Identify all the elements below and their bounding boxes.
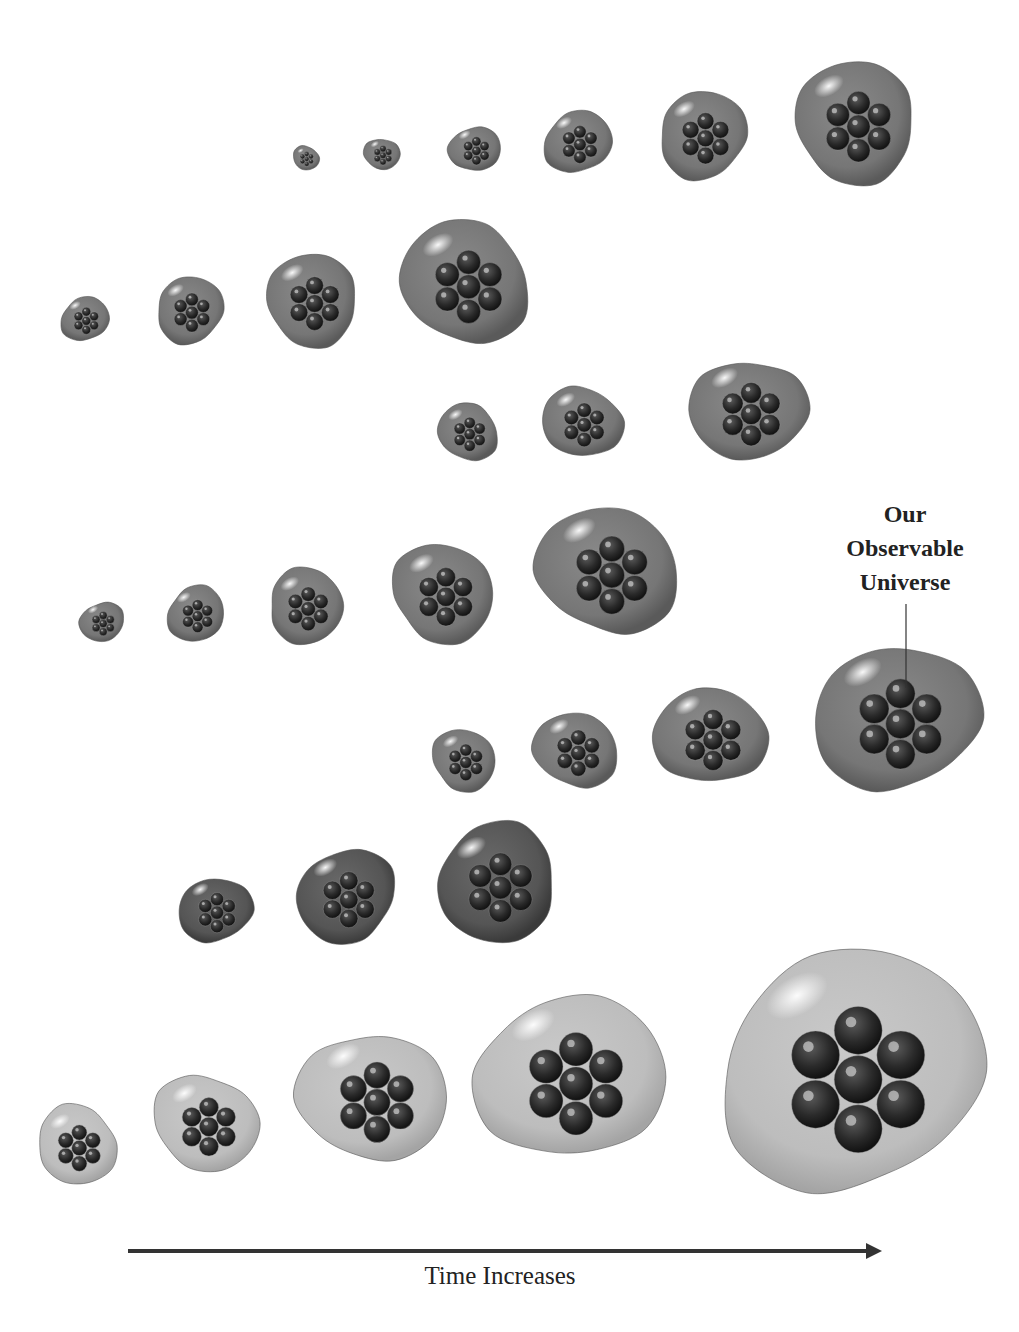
row-7 — [40, 949, 987, 1194]
observable-universe-bubble — [816, 649, 984, 792]
universe-bubble — [725, 949, 987, 1194]
universe-bubble — [267, 254, 355, 348]
universe-bubble — [293, 1037, 446, 1162]
row-4 — [79, 508, 677, 645]
universe-bubble — [40, 1103, 117, 1184]
universe-bubble — [533, 508, 677, 635]
universe-bubble — [392, 544, 492, 644]
universe-bubble — [543, 386, 625, 455]
callout-line-3: Universe — [835, 565, 975, 599]
universe-bubble — [437, 403, 497, 461]
universe-bubble — [531, 713, 616, 788]
time-axis-label: Time Increases — [380, 1262, 620, 1290]
universe-bubble — [79, 602, 124, 642]
universe-bubble — [167, 585, 223, 641]
callout-line-1: Our — [835, 497, 975, 531]
universe-bubble — [61, 296, 110, 340]
universe-bubble — [363, 139, 400, 169]
universe-bubble — [159, 277, 224, 345]
universe-bubble — [154, 1075, 260, 1172]
universe-bubble — [272, 567, 344, 645]
observable-universe-label: Our Observable Universe — [835, 497, 975, 599]
callout-line-2: Observable — [835, 531, 975, 565]
universe-bubble — [293, 146, 319, 170]
row-3 — [437, 363, 810, 460]
universe-bubble — [662, 92, 748, 181]
time-arrow — [128, 1243, 882, 1259]
universe-bubble — [296, 849, 394, 944]
bubble-universe-diagram — [0, 0, 1019, 1332]
row-5 — [432, 649, 984, 793]
row-2 — [61, 219, 528, 348]
universe-bubble — [544, 110, 612, 172]
row-1 — [293, 62, 911, 186]
universe-bubble — [447, 127, 500, 171]
universe-bubble — [438, 820, 552, 942]
universe-bubble — [399, 219, 528, 343]
row-6 — [179, 820, 551, 944]
universe-bubble — [432, 730, 495, 793]
universe-bubble — [652, 688, 769, 781]
universe-bubble — [472, 994, 666, 1153]
bubble-rows — [40, 62, 987, 1194]
arrow-head-icon — [866, 1243, 882, 1259]
universe-bubble — [179, 879, 254, 943]
universe-bubble — [689, 363, 810, 460]
universe-bubble — [795, 62, 911, 186]
